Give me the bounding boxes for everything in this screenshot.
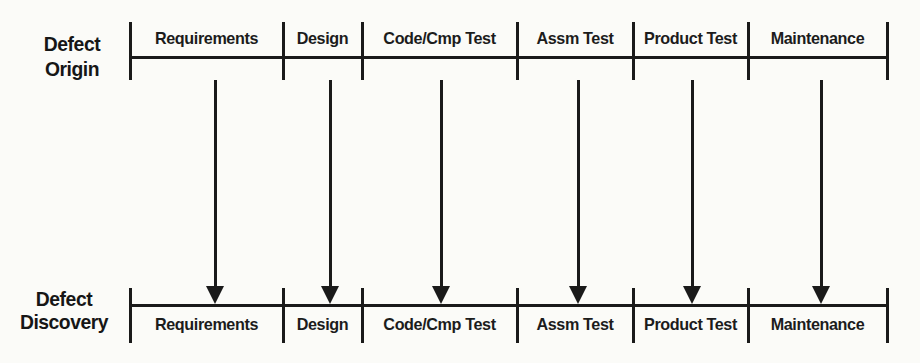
origin-axis-label-line2: Origin [19,56,126,81]
discovery-phase-divider-tick [516,288,519,343]
origin-phase-label: Design [287,25,358,53]
defect-flow-arrow-shaft [329,80,332,288]
origin-phase-divider-tick [632,22,635,80]
origin-phase-divider-tick [361,22,364,80]
defect-flow-arrow-shaft [820,80,823,288]
defect-flow-arrow-head [206,286,224,304]
defect-flow-arrow-shaft [440,80,443,288]
discovery-axis-label-line2: Discovery [5,310,123,333]
defect-flow-arrow-head [569,286,587,304]
origin-phase-divider-tick [282,22,285,80]
defect-flow-arrow-shaft [691,80,694,288]
origin-phase-divider-tick [886,22,889,80]
discovery-phase-divider-tick [632,288,635,343]
origin-axis-label-line1: Defect [19,31,126,56]
defect-flow-arrow-head [812,286,830,304]
discovery-timeline [130,304,889,307]
defect-origin-discovery-diagram: Defect Origin Defect Discovery Requireme… [0,0,920,363]
discovery-phase-label: Assm Test [522,312,628,338]
origin-phase-divider-tick [747,22,750,80]
discovery-phase-label: Requirements [136,312,278,338]
discovery-phase-divider-tick [282,288,285,343]
defect-flow-arrow-shaft [214,80,217,288]
origin-phase-divider-tick [129,22,132,80]
defect-flow-arrow-head [321,286,339,304]
discovery-phase-divider-tick [129,288,132,343]
defect-flow-arrow-head [683,286,701,304]
origin-timeline [130,56,889,59]
discovery-phase-divider-tick [747,288,750,343]
origin-phase-label: Product Test [638,25,743,53]
discovery-phase-divider-tick [361,288,364,343]
origin-phase-label: Maintenance [753,25,881,53]
origin-phase-divider-tick [516,22,519,80]
discovery-phase-label: Product Test [638,312,743,338]
origin-phase-label: Requirements [136,25,278,53]
discovery-axis-label-line1: Defect [5,287,123,310]
discovery-phase-label: Code/Cmp Test [368,312,511,338]
discovery-phase-label: Design [287,312,358,338]
origin-phase-label: Code/Cmp Test [368,25,511,53]
discovery-phase-divider-tick [886,288,889,343]
discovery-axis-label: Defect Discovery [5,287,123,333]
discovery-phase-label: Maintenance [753,312,881,338]
defect-flow-arrow-head [432,286,450,304]
origin-phase-label: Assm Test [522,25,628,53]
defect-flow-arrow-shaft [577,80,580,288]
origin-axis-label: Defect Origin [19,31,126,81]
